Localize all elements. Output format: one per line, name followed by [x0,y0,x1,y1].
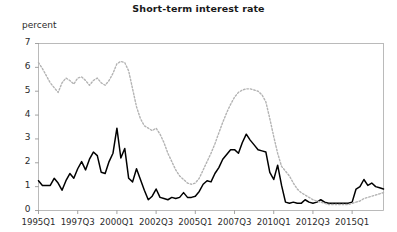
series-solid [39,128,384,203]
y-tick-label: 3 [11,132,31,142]
x-tick-label: 2010Q1 [257,217,291,227]
y-tick-label: 1 [11,180,31,190]
x-tick-label: 1997Q3 [61,217,95,227]
plot-area [0,0,397,232]
chart-figure: Short-term interest rate percent 0123456… [0,0,397,232]
data-series [39,61,384,204]
y-tick-label: 2 [11,156,31,166]
plot-frame [39,44,384,211]
y-tick-label: 5 [11,85,31,95]
x-tick-label: 2000Q1 [100,217,134,227]
x-tick-label: 2007Q3 [217,217,251,227]
x-tick-label: 1995Q1 [21,217,55,227]
x-tick-label: 2015Q1 [335,217,369,227]
y-tick-label: 0 [11,204,31,214]
x-tick-label: 2005Q1 [178,217,212,227]
y-tick-label: 4 [11,109,31,119]
series-dotted [39,61,384,204]
y-tick-label: 6 [11,61,31,71]
x-tick-label: 2012Q3 [296,217,330,227]
y-tick-label: 7 [11,37,31,47]
x-tick-label: 2002Q3 [139,217,173,227]
axes [35,44,384,215]
